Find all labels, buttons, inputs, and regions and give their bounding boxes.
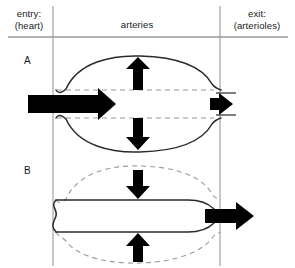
diagram-canvas [0,0,295,268]
panel-a-group [28,56,236,152]
panel-a-entry-arrow-icon [28,88,116,120]
panel-a-radial-arrow-down-icon [126,118,150,150]
panel-b-radial-arrow-up-icon [126,233,150,262]
panel-b-vessel-wall-bottom [56,219,224,232]
figure-arterial-compliance-diagram: entry: (heart) arteries exit: (arteriole… [0,0,295,268]
panel-a-exit-arrow-icon [210,93,233,115]
panel-b-radial-arrow-down-icon [126,170,150,199]
panel-b-exit-arrow-icon [205,202,254,230]
panel-a-radial-arrow-up-icon [126,57,150,90]
panel-b-group [53,166,254,263]
panel-b-vessel-wall-top [56,200,224,213]
